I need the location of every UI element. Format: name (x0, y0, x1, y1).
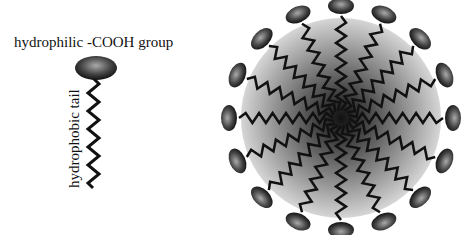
micelle-head-icon (328, 0, 354, 14)
micelle-head-icon (225, 146, 250, 176)
micelle-head-icon (432, 60, 457, 90)
micelle-head-icon (445, 105, 461, 131)
head-group-icon (75, 56, 117, 80)
micelle-head-icon (432, 146, 457, 176)
micelle-diagram (0, 0, 466, 235)
micelle-core (241, 18, 441, 218)
micelle-head-icon (283, 2, 313, 27)
micelle (221, 0, 461, 235)
micelle-head-icon (221, 105, 237, 131)
micelle-head-icon (328, 222, 354, 235)
single-surfactant (75, 56, 117, 188)
micelle-head-icon (283, 209, 313, 234)
micelle-head-icon (225, 60, 250, 90)
micelle-head-icon (369, 209, 399, 234)
zigzag-tail-icon (88, 78, 99, 188)
micelle-head-icon (369, 2, 399, 27)
